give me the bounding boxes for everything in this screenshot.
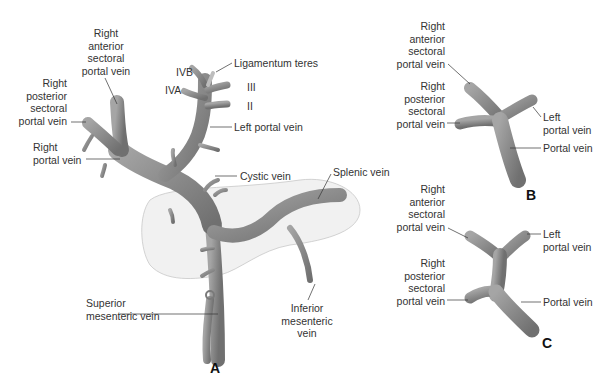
- label-line: Inferior: [277, 302, 337, 315]
- panel-label-b: B: [526, 187, 536, 203]
- label-line: anterior: [385, 33, 445, 46]
- panel-label-c: C: [542, 335, 552, 351]
- label-line: mesenteric: [277, 315, 337, 328]
- label-b-left-portal-vein: Left portal vein: [543, 111, 591, 136]
- label-c-right-anterior-sectoral: Right anterior sectoral portal vein: [385, 183, 445, 233]
- label-line: portal vein: [543, 241, 591, 254]
- label-line: Right: [385, 80, 445, 93]
- label-line: posterior: [385, 270, 445, 283]
- label-ligamentum-teres: Ligamentum teres: [234, 57, 318, 70]
- label-a-right-portal-vein: Right portal vein: [33, 141, 81, 166]
- label-line: sectoral: [78, 52, 134, 65]
- label-a-right-posterior-sectoral: Right posterior sectoral portal vein: [10, 77, 67, 127]
- label-line: sectoral: [385, 208, 445, 221]
- label-line: portal vein: [385, 295, 445, 308]
- panel-b-illustration: [447, 64, 541, 180]
- label-splenic-vein: Splenic vein: [333, 166, 390, 179]
- panel-label-a: A: [210, 360, 220, 376]
- label-cystic-vein: Cystic vein: [240, 170, 291, 183]
- label-line: mesenteric vein: [86, 310, 160, 323]
- label-line: portal vein: [78, 65, 134, 78]
- label-b-portal-vein: Portal vein: [543, 142, 593, 155]
- label-line: portal vein: [33, 154, 81, 167]
- label-line: sectoral: [385, 105, 445, 118]
- label-left-portal-vein: Left portal vein: [234, 121, 303, 134]
- label-line: posterior: [10, 90, 67, 103]
- label-line: Right: [78, 27, 134, 40]
- label-segment-ii: II: [247, 100, 253, 113]
- label-line: vein: [277, 327, 337, 340]
- panel-c-illustration: [447, 228, 541, 330]
- label-line: portal vein: [10, 115, 67, 128]
- label-line: Right: [385, 257, 445, 270]
- label-line: Right: [385, 183, 445, 196]
- label-line: Right: [385, 20, 445, 33]
- label-b-right-anterior-sectoral: Right anterior sectoral portal vein: [385, 20, 445, 70]
- label-line: portal vein: [385, 118, 445, 131]
- label-line: portal vein: [543, 124, 591, 137]
- label-line: Left: [543, 228, 591, 241]
- label-b-right-posterior-sectoral: Right posterior sectoral portal vein: [385, 80, 445, 130]
- label-inferior-mesenteric-vein: Inferior mesenteric vein: [277, 302, 337, 340]
- label-ivb: IVB: [176, 66, 193, 79]
- label-line: Right: [33, 141, 81, 154]
- label-line: portal vein: [385, 58, 445, 71]
- label-c-portal-vein: Portal vein: [543, 296, 593, 309]
- label-superior-mesenteric-vein: Superior mesenteric vein: [86, 297, 160, 322]
- label-c-right-posterior-sectoral: Right posterior sectoral portal vein: [385, 257, 445, 307]
- label-line: posterior: [385, 93, 445, 106]
- label-line: portal vein: [385, 221, 445, 234]
- label-segment-iii: III: [247, 81, 256, 94]
- label-c-left-portal-vein: Left portal vein: [543, 228, 591, 253]
- label-line: Right: [10, 77, 67, 90]
- label-line: Superior: [86, 297, 160, 310]
- label-line: sectoral: [385, 282, 445, 295]
- label-iva: IVA: [165, 84, 181, 97]
- label-line: sectoral: [385, 45, 445, 58]
- label-line: Left: [543, 111, 591, 124]
- label-line: anterior: [78, 40, 134, 53]
- label-line: sectoral: [10, 102, 67, 115]
- label-line: anterior: [385, 196, 445, 209]
- label-a-right-anterior-sectoral: Right anterior sectoral portal vein: [78, 27, 134, 77]
